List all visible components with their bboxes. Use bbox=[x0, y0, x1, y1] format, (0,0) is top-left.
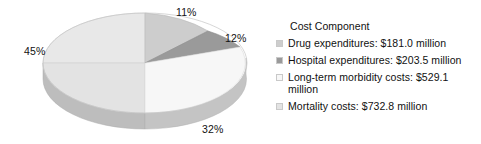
legend-item-hospital[interactable]: Hospital expenditures: $203.5 million bbox=[276, 54, 476, 66]
legend-item-mortality[interactable]: Mortality costs: $732.8 million bbox=[276, 100, 476, 112]
data-label-hospital-percent: 12% bbox=[225, 32, 246, 44]
legend-swatch-drug bbox=[276, 40, 283, 47]
data-label-drug-percent: 11% bbox=[176, 6, 197, 18]
legend-title: Cost Component bbox=[290, 20, 476, 32]
legend-item-drug[interactable]: Drug expenditures: $181.0 million bbox=[276, 37, 476, 49]
pie-svg bbox=[0, 0, 270, 144]
pie-slice-mortality bbox=[43, 13, 145, 63]
legend-swatch-longterm bbox=[276, 74, 283, 81]
pie-top-faces bbox=[43, 13, 245, 113]
legend-label-longterm: Long-term morbidity costs: $529.1 millio… bbox=[288, 71, 466, 95]
legend-item-longterm[interactable]: Long-term morbidity costs: $529.1 millio… bbox=[276, 71, 476, 95]
pie-chart-figure: 11% 12% 45% 32% Cost Component Drug expe… bbox=[0, 0, 481, 144]
data-label-mortality-percent: 45% bbox=[24, 45, 45, 57]
pie-chart-graphic: 11% 12% 45% 32% bbox=[0, 0, 270, 144]
chart-legend: Cost Component Drug expenditures: $181.0… bbox=[276, 20, 476, 117]
data-label-longterm-percent: 32% bbox=[202, 123, 223, 135]
legend-label-mortality: Mortality costs: $732.8 million bbox=[288, 100, 427, 112]
legend-label-hospital: Hospital expenditures: $203.5 million bbox=[288, 54, 461, 66]
legend-swatch-mortality bbox=[276, 103, 283, 110]
legend-swatch-hospital bbox=[276, 57, 283, 64]
legend-label-drug: Drug expenditures: $181.0 million bbox=[288, 37, 446, 49]
